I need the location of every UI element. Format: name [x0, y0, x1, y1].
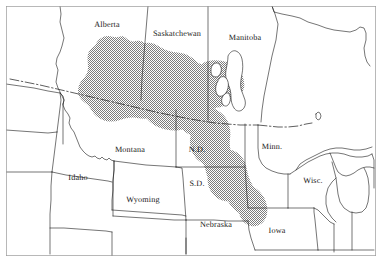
- map-canvas: [0, 0, 382, 262]
- map-figure: Alberta Saskatchewan Manitoba Montana Id…: [0, 0, 382, 262]
- lake-winnipegosis: [211, 63, 221, 77]
